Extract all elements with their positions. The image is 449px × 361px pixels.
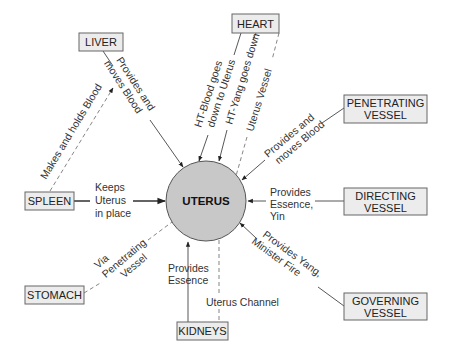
svg-text:KIDNEYS: KIDNEYS	[178, 325, 226, 337]
edge-label: Provides Yang, Minister Fire	[250, 225, 327, 290]
node-liver: LIVER	[79, 33, 123, 51]
svg-text:PENETRATING: PENETRATING	[347, 97, 424, 109]
edge-liver-uterus: Provides and moves Blood	[102, 51, 183, 167]
svg-text:VESSEL: VESSEL	[364, 202, 407, 214]
node-kidneys: KIDNEYS	[177, 322, 228, 340]
edge-kidneys-uterus: Provides Essence	[168, 242, 212, 322]
svg-text:VESSEL: VESSEL	[364, 307, 407, 319]
svg-text:GOVERNING: GOVERNING	[352, 295, 419, 307]
edge-spleen-uterus: Keeps Uterus in place	[74, 181, 165, 219]
svg-text:UTERUS: UTERUS	[182, 195, 230, 207]
edge-label: Provides Essence, Yin	[270, 186, 316, 222]
node-heart: HEART	[232, 14, 279, 33]
uterus-relationship-diagram: Provides and moves Blood Makes and holds…	[0, 0, 449, 361]
svg-text:STOMACH: STOMACH	[27, 289, 82, 301]
node-penetrating-vessel: PENETRATING VESSEL	[344, 95, 427, 123]
edge-label: Uterus Channel	[206, 296, 279, 308]
svg-text:HEART: HEART	[237, 18, 274, 30]
edge-directing-uterus: Provides Essence, Yin	[248, 186, 344, 222]
uterus-node: UTERUS	[166, 161, 246, 241]
svg-text:VESSEL: VESSEL	[364, 109, 407, 121]
svg-text:LIVER: LIVER	[85, 36, 117, 48]
node-governing-vessel: GOVERNING VESSEL	[344, 293, 427, 320]
edge-governing-uterus: Provides Yang, Minister Fire	[240, 223, 344, 306]
edge-label: Keeps Uterus in place	[95, 181, 131, 219]
svg-text:DIRECTING: DIRECTING	[355, 190, 416, 202]
svg-text:SPLEEN: SPLEEN	[28, 195, 71, 207]
edge-label: Provides and moves Blood	[102, 51, 159, 121]
edge-spleen-liver: Makes and holds Blood	[37, 81, 113, 191]
node-spleen: SPLEEN	[25, 192, 74, 210]
edge-label: Makes and holds Blood	[37, 81, 104, 181]
node-directing-vessel: DIRECTING VESSEL	[344, 188, 427, 215]
edge-stomach-uterus: Via Penetrating Vessel	[84, 222, 172, 293]
node-stomach: STOMACH	[25, 286, 84, 304]
edge-label: Provides Essence	[168, 262, 212, 286]
edge-label: Provides and moves Blood	[262, 109, 327, 169]
edge-label: Via Penetrating Vessel	[92, 225, 159, 289]
